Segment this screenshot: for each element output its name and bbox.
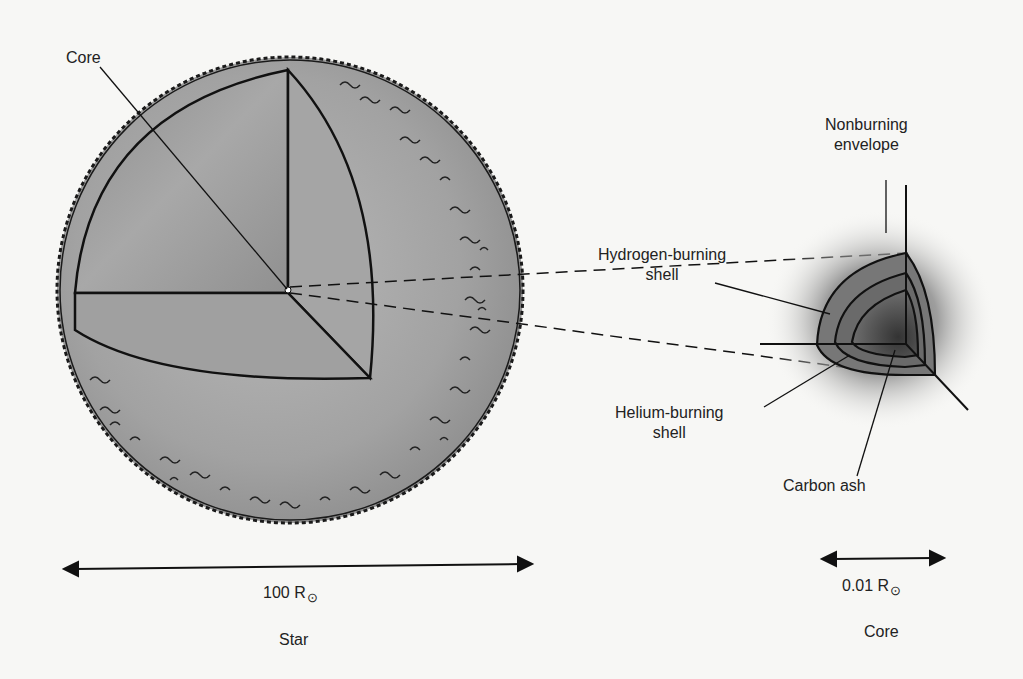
core-scale-arrow <box>822 551 944 566</box>
sun-symbol-icon: ⊙ <box>890 583 901 598</box>
star-scale-arrow <box>64 557 532 576</box>
core-scale-value: 0.01 R <box>842 577 889 594</box>
hydrogen-label-line1: Hydrogen-burning <box>598 245 726 265</box>
core-label: Core <box>66 48 101 68</box>
envelope-label-line2: envelope <box>825 135 908 155</box>
star-scale-label: 100 R⊙ <box>263 583 318 608</box>
helium-label-line1: Helium-burning <box>615 403 724 423</box>
core-detail <box>760 185 995 430</box>
nonburning-envelope-label: Nonburning envelope <box>825 115 908 155</box>
star-caption: Star <box>279 630 308 650</box>
hydrogen-shell-label: Hydrogen-burning shell <box>598 245 726 285</box>
star-scale-value: 100 R <box>263 584 306 601</box>
sun-symbol-icon: ⊙ <box>307 590 318 605</box>
helium-shell-label: Helium-burning shell <box>615 403 724 443</box>
envelope-label-line1: Nonburning <box>825 115 908 135</box>
helium-label-line2: shell <box>615 423 724 443</box>
carbon-ash-label: Carbon ash <box>783 476 866 496</box>
hydrogen-label-line2: shell <box>598 265 726 285</box>
core-scale-label: 0.01 R⊙ <box>842 576 901 601</box>
core-caption: Core <box>864 622 899 642</box>
